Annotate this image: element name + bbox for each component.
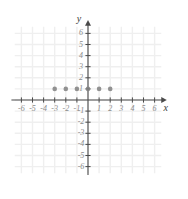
data-point-layer [0,0,188,199]
data-points [52,87,112,92]
coordinate-plane-figure: -6-5-4-3-2-1123456654321-1-2-3-4-5-6 x y [0,0,188,199]
